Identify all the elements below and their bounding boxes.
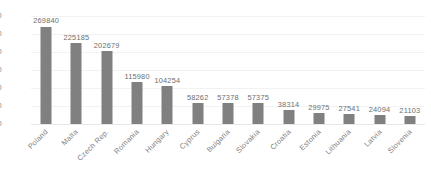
y-axis-tick-label: 300000 [0,12,2,19]
y-axis-tick-label: 100000 [0,84,2,91]
bar[interactable] [101,51,112,124]
x-axis-label-slot: Slovenia [395,126,425,188]
x-axis-label-slot: Hungary [152,126,182,188]
bar-slot: 225185 [61,16,91,124]
bar-value-label: 57375 [248,94,270,101]
y-axis-tick-label: 0 [0,120,2,127]
bar-slot: 29975 [304,16,334,124]
x-axis-label-slot: Lithuania [334,126,364,188]
y-axis-tick-label: 150000 [0,66,2,73]
bar-value-label: 104254 [154,77,180,84]
bar[interactable] [71,43,82,124]
x-axis-label-slot: Latvia [364,126,394,188]
bar-value-label: 269840 [33,17,59,24]
x-axis-label-slot: Estonia [304,126,334,188]
bar-value-label: 57378 [217,94,239,101]
x-axis-tick-label-text: Latvia [363,128,383,148]
bar-slot: 202679 [92,16,122,124]
x-axis-label-slot: Romania [122,126,152,188]
x-axis-labels: PolandMaltaCzech Rep.RomaniaHungaryCypru… [31,126,425,188]
y-axis-tick-label: 50000 [0,102,2,109]
x-axis-label-slot: Poland [31,126,61,188]
bar-slot: 57378 [213,16,243,124]
bar-slot: 27541 [334,16,364,124]
x-axis-label-slot: Cyprus [183,126,213,188]
x-axis-label-slot: Croatia [273,126,303,188]
bar-value-label: 58262 [187,94,209,101]
y-axis-tick-label: 250000 [0,30,2,37]
bar-slot: 269840 [31,16,61,124]
bar-slot: 21103 [395,16,425,124]
x-axis-label-slot: Slovakia [243,126,273,188]
bar[interactable] [41,27,52,124]
bar-value-label: 38314 [278,101,300,108]
y-axis-tick-label: 200000 [0,48,2,55]
bar-value-label: 115980 [124,73,149,80]
bar[interactable] [162,86,173,124]
x-axis-tick-label-text: Poland [27,128,50,151]
bar-value-label: 225185 [64,34,90,41]
x-axis-tick-label-text: Malta [61,128,80,147]
bar-chart: 050000100000150000200000250000300000 269… [0,0,431,191]
bar-value-label: 29975 [308,104,330,111]
bar-value-label: 21103 [399,107,420,114]
bar-value-label: 27541 [338,105,360,112]
x-axis-label-slot: Czech Rep. [92,126,122,188]
bar-value-label: 202679 [94,42,120,49]
x-axis-label-slot: Bulgaria [213,126,243,188]
